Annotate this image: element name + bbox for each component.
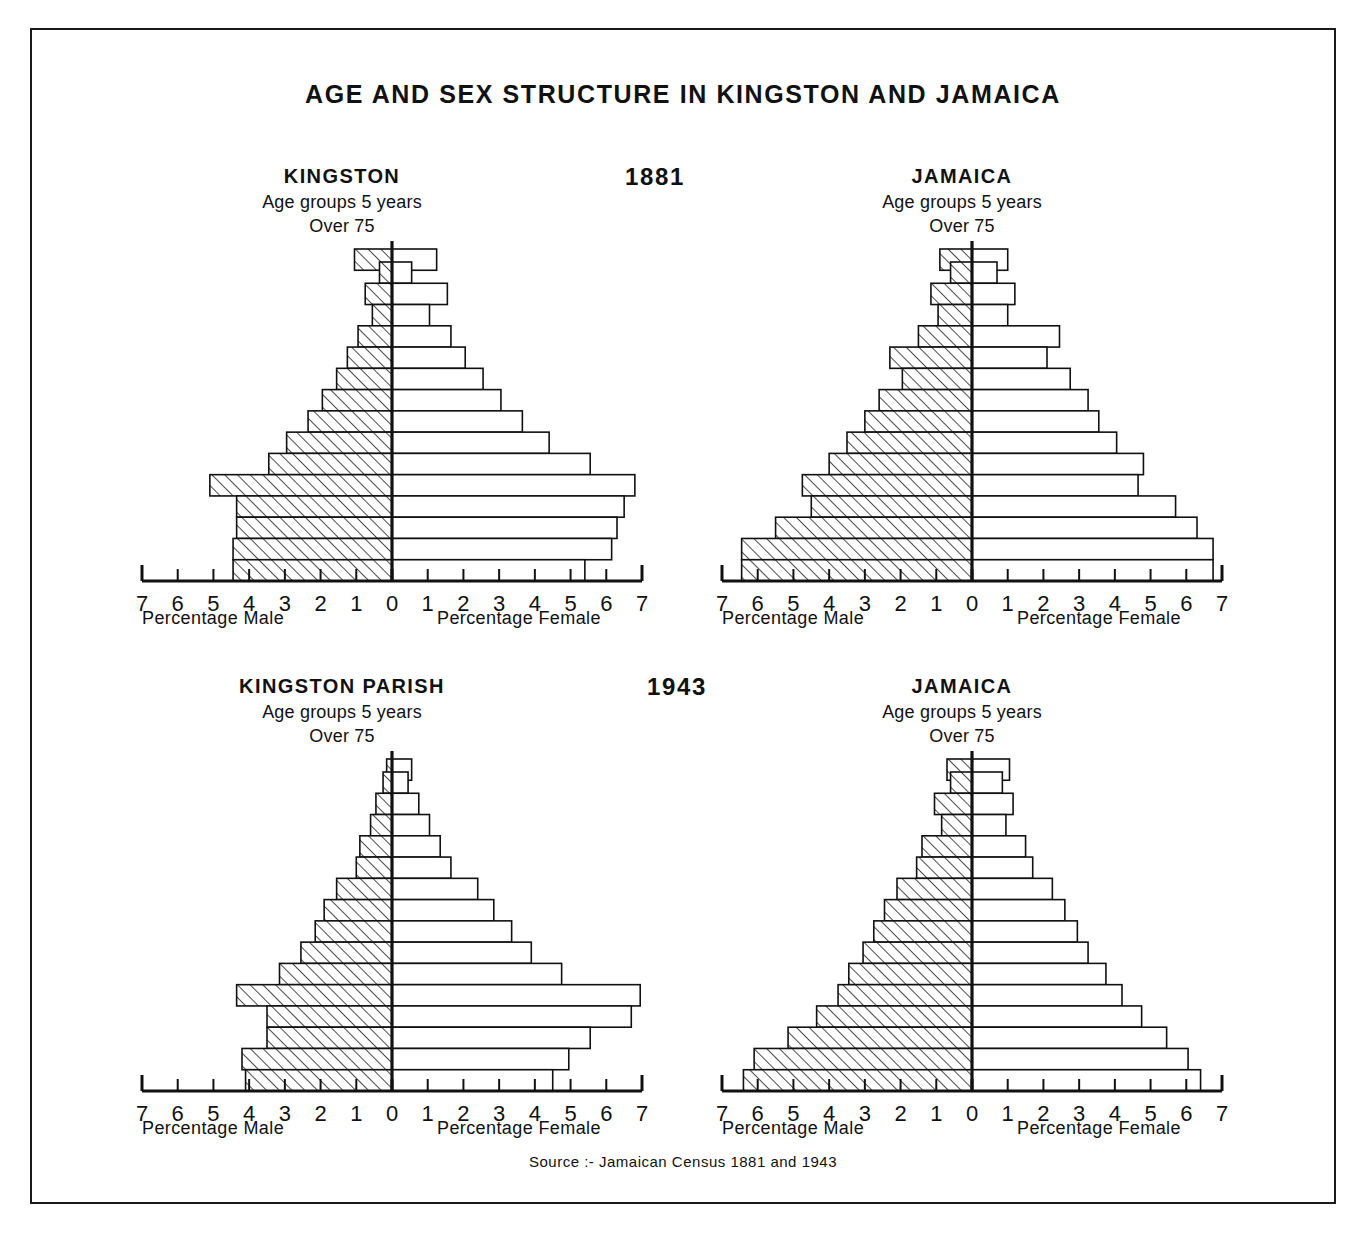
panel-jamaica-1881: JAMAICA Age groups 5 years Over 75 76543… <box>672 165 1272 665</box>
bar-female <box>972 921 1077 942</box>
bar-female <box>392 475 635 496</box>
bar-male <box>951 772 972 793</box>
bar-female <box>972 390 1088 411</box>
bar-male <box>267 1027 392 1048</box>
bar-male <box>308 411 392 432</box>
bar-female <box>392 283 447 304</box>
pyramid-plot-kingston-parish-1943: 765432101234567 <box>92 751 692 1161</box>
bar-female <box>972 942 1088 963</box>
bar-female <box>392 942 531 963</box>
bar-female <box>972 326 1060 347</box>
bar-female <box>972 475 1138 496</box>
x-tick-label: 7 <box>1216 1101 1228 1126</box>
x-tick-label: 0 <box>966 591 978 616</box>
bar-female <box>392 262 412 283</box>
bar-male <box>237 985 392 1006</box>
bar-male <box>902 368 972 389</box>
bar-female <box>392 411 522 432</box>
bar-male <box>776 517 972 538</box>
bar-female <box>972 1070 1201 1091</box>
axis-label-male-jamaica-1881: Percentage Male <box>722 608 864 629</box>
bar-female <box>972 1027 1167 1048</box>
bar-male <box>754 1048 972 1069</box>
bar-female <box>972 538 1213 559</box>
axis-label-female-jamaica-1881: Percentage Female <box>1017 608 1181 629</box>
bar-male <box>287 432 392 453</box>
x-tick-label: 1 <box>350 1101 362 1126</box>
bar-male <box>324 900 392 921</box>
bar-female <box>392 772 408 793</box>
bar-female <box>972 411 1099 432</box>
x-tick-label: 2 <box>314 591 326 616</box>
bar-male <box>802 475 972 496</box>
bar-female <box>392 1027 590 1048</box>
x-tick-label: 1 <box>1002 1101 1014 1126</box>
figure-title: AGE AND SEX STRUCTURE IN KINGSTON AND JA… <box>32 80 1334 109</box>
bar-male <box>951 262 972 283</box>
pyramid-plot-jamaica-1881: 765432101234567 <box>672 241 1272 651</box>
panel-annotation-over-75: Over 75 <box>662 216 1262 237</box>
bar-female <box>392 963 562 984</box>
bar-male <box>233 560 392 581</box>
bar-male <box>865 411 972 432</box>
bar-female <box>392 517 617 538</box>
bar-female <box>392 496 624 517</box>
bar-male <box>811 496 972 517</box>
bar-male <box>380 262 393 283</box>
bar-female <box>392 1006 631 1027</box>
bar-male <box>849 963 972 984</box>
axis-label-female-kingston-parish-1943: Percentage Female <box>437 1118 601 1139</box>
bar-male <box>371 815 392 836</box>
bar-female <box>972 772 1002 793</box>
panel-subtitle-age-groups: Age groups 5 years <box>42 702 642 723</box>
bar-male <box>935 793 973 814</box>
bar-male <box>897 878 972 899</box>
panel-title-jamaica-1881: JAMAICA <box>662 165 1262 188</box>
x-tick-label: 6 <box>1180 591 1192 616</box>
bar-female <box>972 368 1070 389</box>
bar-female <box>392 453 590 474</box>
bar-female <box>392 347 465 368</box>
bar-female <box>972 305 1008 326</box>
axis-label-female-jamaica-1943: Percentage Female <box>1017 1118 1181 1139</box>
bar-female <box>972 815 1006 836</box>
bar-male <box>788 1027 972 1048</box>
bar-male <box>829 453 972 474</box>
bar-male <box>917 857 972 878</box>
panel-annotation-over-75: Over 75 <box>662 726 1262 747</box>
x-tick-label: 1 <box>930 591 942 616</box>
bar-female <box>392 538 612 559</box>
panel-kingston-1881: KINGSTON Age groups 5 years Over 75 7654… <box>92 165 692 665</box>
bar-female <box>392 1048 569 1069</box>
panel-kingston-parish-1943: KINGSTON PARISH Age groups 5 years Over … <box>92 675 692 1175</box>
x-tick-label: 6 <box>600 1101 612 1126</box>
bar-female <box>392 432 549 453</box>
bar-female <box>392 836 440 857</box>
bar-male <box>269 453 392 474</box>
x-tick-label: 2 <box>894 1101 906 1126</box>
panel-subtitle-age-groups: Age groups 5 years <box>42 192 642 213</box>
bar-female <box>972 836 1026 857</box>
bar-female <box>972 1006 1142 1027</box>
bar-female <box>392 560 585 581</box>
bar-male <box>938 305 972 326</box>
bar-male <box>817 1006 972 1027</box>
bar-male <box>301 942 392 963</box>
bar-male <box>210 475 392 496</box>
bar-female <box>392 326 451 347</box>
bar-male <box>347 347 392 368</box>
bar-male <box>874 921 972 942</box>
bar-female <box>972 453 1143 474</box>
year-label-1881: 1881 <box>600 163 710 191</box>
bar-female <box>392 900 494 921</box>
bar-male <box>337 878 392 899</box>
bar-female <box>972 283 1015 304</box>
bar-female <box>392 390 501 411</box>
bar-male <box>942 815 972 836</box>
bar-male <box>322 390 392 411</box>
bar-female <box>392 815 430 836</box>
x-tick-label: 0 <box>386 1101 398 1126</box>
pyramid-bars <box>237 759 641 1091</box>
bar-female <box>972 496 1176 517</box>
x-tick-label: 0 <box>386 591 398 616</box>
